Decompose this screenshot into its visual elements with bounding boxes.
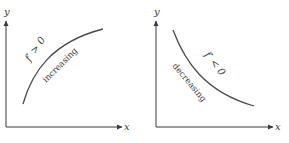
decreasing-panel: y x f′ < 0 decreasing [153,6,281,132]
diagram-canvas: y x f′ > 0 increasing y x f′ < 0 decreas… [0,0,289,143]
y-axis-label: y [3,6,10,17]
derivative-negative-label: f′ < 0 [202,49,228,78]
x-axis-label: x [124,121,130,132]
increasing-label: increasing [40,45,79,84]
derivative-positive-label: f′ > 0 [22,34,47,64]
x-axis-label: x [275,121,281,132]
decreasing-label: decreasing [170,61,208,104]
y-axis-label: y [153,6,160,17]
increasing-panel: y x f′ > 0 increasing [3,6,130,132]
